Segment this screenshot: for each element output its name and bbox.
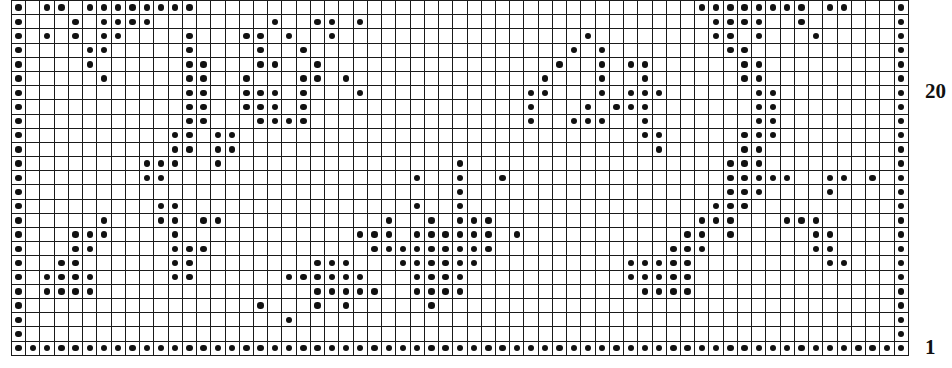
grid-cell-empty — [367, 327, 381, 341]
grid-cell-empty — [866, 57, 880, 71]
grid-cell-empty — [282, 128, 296, 142]
grid-cell-filled — [894, 341, 908, 355]
grid-cell-empty — [467, 199, 481, 213]
grid-cell-empty — [794, 242, 808, 256]
grid-cell-filled — [894, 313, 908, 327]
grid-cell-empty — [481, 298, 495, 312]
grid-cell-empty — [538, 114, 552, 128]
pattern-grid-body — [12, 1, 909, 356]
grid-cell-empty — [154, 114, 168, 128]
grid-cell-empty — [140, 284, 154, 298]
grid-cell-empty — [382, 71, 396, 85]
grid-cell-filled — [752, 128, 766, 142]
grid-cell-filled — [182, 256, 196, 270]
grid-cell-filled — [723, 199, 737, 213]
grid-cell-filled — [723, 185, 737, 199]
grid-cell-empty — [54, 114, 68, 128]
grid-cell-empty — [666, 71, 680, 85]
grid-cell-empty — [538, 43, 552, 57]
grid-cell-empty — [439, 157, 453, 171]
grid-cell-empty — [723, 142, 737, 156]
grid-cell-empty — [182, 213, 196, 227]
grid-cell-filled — [68, 242, 82, 256]
grid-cell-filled — [339, 284, 353, 298]
grid-cell-empty — [695, 128, 709, 142]
grid-cell-filled — [296, 71, 310, 85]
grid-row — [12, 71, 909, 85]
grid-cell-empty — [140, 298, 154, 312]
grid-cell-empty — [709, 57, 723, 71]
grid-cell-empty — [154, 100, 168, 114]
grid-cell-filled — [12, 142, 26, 156]
grid-cell-filled — [168, 142, 182, 156]
grid-cell-empty — [495, 114, 509, 128]
grid-cell-empty — [111, 256, 125, 270]
grid-cell-empty — [709, 298, 723, 312]
grid-cell-filled — [253, 86, 267, 100]
grid-row — [12, 313, 909, 327]
grid-cell-empty — [552, 298, 566, 312]
grid-cell-empty — [54, 313, 68, 327]
grid-cell-empty — [68, 1, 82, 15]
grid-cell-empty — [752, 298, 766, 312]
grid-cell-empty — [111, 171, 125, 185]
grid-cell-empty — [723, 327, 737, 341]
grid-cell-empty — [467, 171, 481, 185]
grid-row — [12, 114, 909, 128]
grid-cell-empty — [453, 298, 467, 312]
grid-cell-filled — [823, 242, 837, 256]
grid-cell-empty — [353, 242, 367, 256]
grid-cell-filled — [239, 341, 253, 355]
grid-cell-empty — [780, 242, 794, 256]
grid-cell-filled — [296, 341, 310, 355]
grid-cell-filled — [12, 256, 26, 270]
grid-cell-empty — [83, 15, 97, 29]
grid-cell-empty — [609, 157, 623, 171]
grid-cell-empty — [424, 199, 438, 213]
grid-cell-filled — [453, 242, 467, 256]
grid-cell-empty — [325, 100, 339, 114]
grid-cell-empty — [567, 213, 581, 227]
grid-cell-empty — [695, 298, 709, 312]
grid-cell-empty — [737, 298, 751, 312]
grid-cell-empty — [282, 256, 296, 270]
grid-cell-empty — [26, 15, 40, 29]
grid-cell-empty — [40, 313, 54, 327]
grid-cell-filled — [97, 15, 111, 29]
grid-cell-empty — [837, 213, 851, 227]
grid-cell-empty — [225, 270, 239, 284]
grid-cell-empty — [367, 114, 381, 128]
grid-cell-empty — [552, 128, 566, 142]
grid-cell-empty — [681, 114, 695, 128]
grid-cell-empty — [97, 114, 111, 128]
grid-cell-empty — [367, 171, 381, 185]
grid-cell-empty — [495, 185, 509, 199]
grid-cell-empty — [581, 43, 595, 57]
grid-cell-filled — [737, 341, 751, 355]
grid-cell-filled — [168, 1, 182, 15]
grid-cell-empty — [866, 185, 880, 199]
grid-cell-empty — [666, 100, 680, 114]
grid-cell-empty — [709, 313, 723, 327]
grid-cell-filled — [823, 1, 837, 15]
grid-cell-empty — [837, 242, 851, 256]
grid-cell-empty — [495, 327, 509, 341]
grid-cell-empty — [581, 199, 595, 213]
grid-cell-empty — [595, 256, 609, 270]
grid-cell-filled — [681, 341, 695, 355]
grid-cell-empty — [197, 228, 211, 242]
grid-cell-filled — [182, 1, 196, 15]
grid-cell-empty — [396, 114, 410, 128]
grid-cell-empty — [752, 43, 766, 57]
grid-cell-empty — [83, 327, 97, 341]
grid-cell-empty — [382, 86, 396, 100]
grid-cell-empty — [737, 242, 751, 256]
grid-cell-empty — [211, 43, 225, 57]
grid-cell-empty — [296, 1, 310, 15]
grid-cell-empty — [339, 15, 353, 29]
grid-cell-empty — [97, 128, 111, 142]
grid-cell-empty — [197, 128, 211, 142]
grid-cell-empty — [681, 15, 695, 29]
grid-cell-empty — [567, 185, 581, 199]
grid-cell-empty — [353, 100, 367, 114]
